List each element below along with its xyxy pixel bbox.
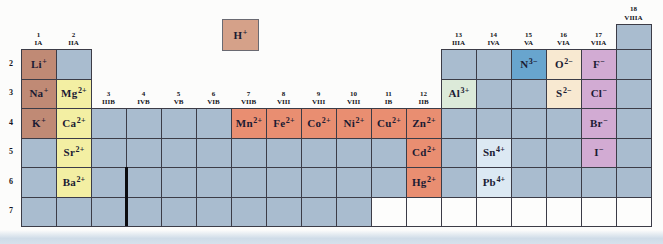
period-label-2: 2	[3, 59, 19, 69]
ion-symbol: Co	[307, 117, 321, 129]
ion-symbol: O	[555, 58, 564, 70]
ion-cell-fe: Fe2+	[266, 108, 302, 139]
ion-charge: −	[603, 86, 608, 95]
empty-element-cell	[231, 197, 267, 228]
empty-element-cell	[476, 79, 512, 110]
period-label-6: 6	[3, 177, 19, 187]
empty-element-cell	[161, 108, 197, 139]
ion-charge: 2−	[564, 57, 573, 66]
ion-charge: 2+	[78, 86, 87, 95]
ion-label: S2−	[556, 88, 572, 99]
empty-element-cell	[56, 197, 92, 228]
period-label-3: 3	[3, 88, 19, 98]
ion-charge: −	[599, 145, 604, 154]
ion-charge: 2+	[322, 116, 331, 125]
empty-element-cell	[161, 167, 197, 198]
group-header-12: 12IIB	[403, 90, 444, 107]
period-label-5: 5	[3, 147, 19, 157]
ion-symbol: Mg	[61, 87, 77, 99]
ion-charge: 2+	[76, 175, 85, 184]
ion-label: Br−	[590, 118, 608, 129]
empty-element-cell	[161, 197, 197, 228]
ion-label: Sr2+	[64, 147, 85, 158]
ion-label: Ba2+	[63, 177, 86, 188]
ion-label: Zn2+	[412, 118, 435, 129]
ion-cell-na: Na+	[21, 79, 57, 110]
empty-element-cell	[616, 138, 652, 169]
empty-element-cell	[196, 197, 232, 228]
empty-element-cell	[196, 138, 232, 169]
hydrogen-ion-cell: H+	[222, 19, 259, 51]
ion-label: Co2+	[307, 118, 330, 129]
empty-element-cell	[21, 197, 57, 228]
ion-label: O2−	[555, 59, 573, 70]
ion-symbol: K	[32, 117, 41, 129]
ion-cell-o: O2−	[546, 49, 582, 80]
undiscovered-element-cell	[616, 197, 652, 228]
ion-label: Cd2+	[412, 147, 436, 158]
ion-symbol: Fe	[273, 117, 285, 129]
undiscovered-element-cell	[546, 197, 582, 228]
ion-cell-ba: Ba2+	[56, 167, 92, 198]
ion-cell-co: Co2+	[301, 108, 337, 139]
empty-element-cell	[126, 167, 162, 198]
ion-symbol: Cl	[591, 87, 602, 99]
empty-element-cell	[336, 138, 372, 169]
ion-label: Cl−	[591, 88, 608, 99]
ion-label: Pb4+	[483, 177, 506, 188]
ion-symbol: S	[556, 87, 562, 99]
empty-element-cell	[56, 49, 92, 80]
ion-charge: +	[243, 28, 248, 37]
empty-element-cell	[266, 197, 302, 228]
ion-symbol: Sr	[64, 146, 75, 158]
empty-element-cell	[511, 79, 547, 110]
ion-symbol: Ba	[63, 176, 76, 188]
undiscovered-element-cell	[476, 197, 512, 228]
ion-symbol: H	[233, 29, 242, 41]
ion-cell-n: N3−	[511, 49, 547, 80]
empty-element-cell	[301, 138, 337, 169]
ion-charge: 2+	[355, 116, 364, 125]
ion-symbol: Sn	[483, 146, 496, 158]
empty-element-cell	[546, 108, 582, 139]
undiscovered-element-cell	[511, 197, 547, 228]
empty-element-cell	[336, 197, 372, 228]
period-label-7: 7	[3, 206, 19, 216]
ion-symbol: Ni	[344, 117, 355, 129]
ion-cell-pb: Pb4+	[476, 167, 512, 198]
ion-label: Ca2+	[62, 118, 85, 129]
undiscovered-element-cell	[581, 197, 617, 228]
ion-cell-zn: Zn2+	[406, 108, 442, 139]
empty-element-cell	[511, 167, 547, 198]
ion-cell-ca: Ca2+	[56, 108, 92, 139]
empty-element-cell	[616, 49, 652, 80]
empty-element-cell	[511, 108, 547, 139]
ion-symbol: Pb	[483, 176, 496, 188]
ion-symbol: Ca	[62, 117, 76, 129]
ion-charge: +	[41, 116, 46, 125]
ion-cell-li: Li+	[21, 49, 57, 80]
empty-element-cell	[581, 167, 617, 198]
empty-element-cell	[546, 167, 582, 198]
ion-cell-cl: Cl−	[581, 79, 617, 110]
empty-element-cell	[616, 79, 652, 110]
ion-symbol: F	[593, 58, 600, 70]
ion-charge: 3−	[529, 57, 538, 66]
empty-element-cell	[441, 108, 477, 139]
ion-label: I−	[594, 147, 604, 158]
empty-element-cell	[476, 108, 512, 139]
ion-cell-f: F−	[581, 49, 617, 80]
empty-element-cell	[91, 108, 127, 139]
ion-label: Hg2+	[412, 177, 436, 188]
ion-charge: 4+	[496, 175, 505, 184]
undiscovered-element-cell	[406, 197, 442, 228]
ion-symbol: Li	[31, 58, 42, 70]
empty-element-cell	[196, 108, 232, 139]
empty-element-cell	[441, 167, 477, 198]
ion-symbol: N	[520, 58, 528, 70]
empty-element-cell	[231, 138, 267, 169]
empty-element-cell	[161, 138, 197, 169]
ion-symbol: Zn	[412, 117, 426, 129]
ion-label: Mg2+	[61, 88, 87, 99]
ion-cell-hg: Hg2+	[406, 167, 442, 198]
